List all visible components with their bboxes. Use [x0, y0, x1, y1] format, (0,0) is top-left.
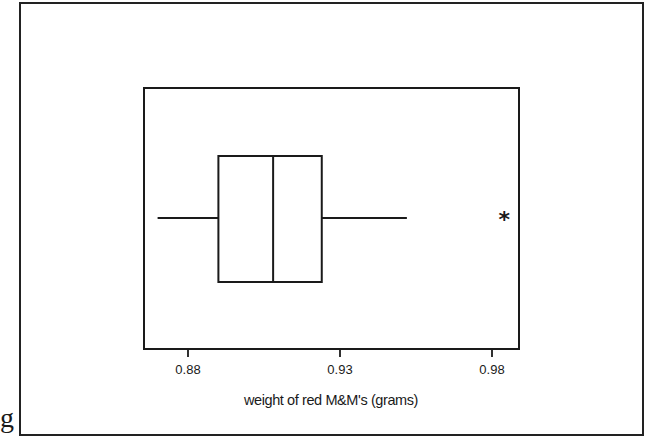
x-tick-label: 0.88 — [175, 362, 200, 377]
outlier-marker: * — [498, 207, 510, 232]
interquartile-box — [218, 156, 321, 282]
x-axis-label: weight of red M&M's (grams) — [243, 392, 418, 408]
x-tick-label: 0.93 — [327, 362, 352, 377]
x-axis-tick-labels: 0.880.930.98 — [175, 362, 504, 377]
box-plot: * — [158, 156, 511, 282]
boxplot-chart: 0.880.930.98 * weight of red M&M's (gram… — [0, 0, 648, 442]
x-axis-ticks — [188, 349, 492, 357]
x-tick-label: 0.98 — [479, 362, 504, 377]
